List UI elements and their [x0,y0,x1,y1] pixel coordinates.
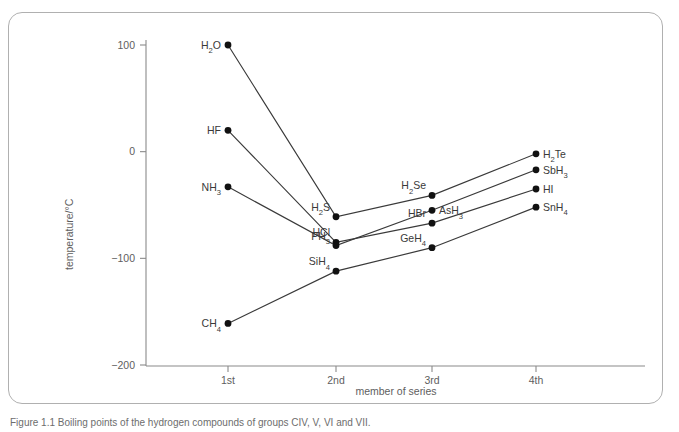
boiling-point-chart: 1000−100−200 temperature/°C 1st2nd3rd4th… [0,0,679,432]
data-point [225,320,232,327]
x-axis: 1st2nd3rd4th member of series [146,366,645,397]
point-label: H2S [311,201,330,217]
point-label: HI [543,183,554,195]
data-point [533,204,540,211]
data-point [333,268,340,275]
y-tick-label: −100 [111,252,135,264]
y-tick-label: −200 [111,359,135,371]
data-point [429,220,436,227]
x-tick-group: 1st2nd3rd4th [221,366,543,386]
series-line-3 [228,207,536,323]
x-tick-label: 1st [221,374,235,386]
y-axis: 1000−100−200 temperature/°C [63,39,146,371]
data-point [533,186,540,193]
y-tick-label: 100 [117,39,135,51]
data-point [429,244,436,251]
point-label: SnH4 [543,201,568,217]
x-tick-label: 4th [529,374,544,386]
point-label: SiH4 [309,255,330,271]
point-label: H2Te [543,148,566,164]
data-point [225,42,232,49]
y-tick-group: 1000−100−200 [111,39,146,371]
point-label: GeH4 [400,232,426,248]
point-labels-layer: H2OH2SH2SeH2TeHFHClHBrHINH3PH3AsH3SbH3CH… [201,39,568,334]
series-line-0 [228,45,536,217]
point-label: NH3 [202,181,221,197]
series-line-2 [228,170,536,246]
data-point [533,150,540,157]
data-point [429,207,436,214]
data-point [533,166,540,173]
point-label: H2O [201,39,221,55]
point-label: HBr [408,207,427,219]
data-point [429,192,436,199]
point-label: AsH3 [439,204,463,220]
y-tick-label: 0 [129,145,135,157]
data-point [225,183,232,190]
point-label: SbH3 [543,164,568,180]
point-label: H2Se [401,179,426,195]
figure-caption: Figure 1.1 Boiling points of the hydroge… [10,414,670,432]
x-tick-label: 2nd [327,374,345,386]
data-point [333,213,340,220]
data-point [225,127,232,134]
y-axis-title: temperature/°C [63,198,75,270]
x-axis-title: member of series [355,385,436,397]
data-point [333,242,340,249]
point-label: HF [207,124,221,136]
series-layer [225,42,540,327]
point-label: CH4 [202,317,221,333]
